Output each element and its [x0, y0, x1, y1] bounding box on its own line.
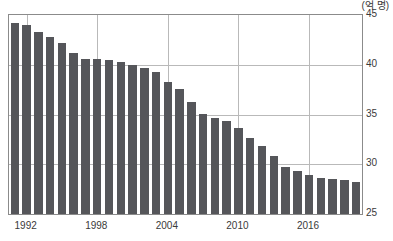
y-tick-label-45: 45: [366, 9, 377, 19]
x-tick-label-2016: 2016: [297, 220, 319, 231]
bar-2005: [175, 89, 183, 214]
bar-1997: [81, 59, 89, 214]
bar-2004: [164, 82, 172, 214]
bar-2000: [117, 62, 125, 214]
bar-2001: [128, 65, 136, 214]
bar-2011: [246, 138, 254, 214]
bar-2002: [140, 68, 148, 214]
bar-2017: [317, 178, 325, 214]
bar-1993: [34, 32, 42, 214]
x-tick-label-1992: 1992: [15, 220, 37, 231]
y-tick-label-35: 35: [366, 109, 377, 119]
y-tick-label-40: 40: [366, 59, 377, 69]
bar-1992: [22, 25, 30, 214]
bar-2007: [199, 114, 207, 214]
bar-1998: [93, 59, 101, 214]
bar-2019: [340, 180, 348, 214]
bar-2003: [152, 72, 160, 214]
x-tick-label-2010: 2010: [226, 220, 248, 231]
plot-area: [8, 14, 363, 215]
bar-series: [9, 15, 362, 214]
bar-1999: [105, 60, 113, 214]
bar-2010: [234, 128, 242, 214]
bar-2014: [281, 167, 289, 214]
x-tick-label-2004: 2004: [156, 220, 178, 231]
x-tick-label-1998: 1998: [85, 220, 107, 231]
bar-2009: [222, 121, 230, 214]
bar-2015: [293, 171, 301, 214]
bar-2006: [187, 102, 195, 214]
y-tick-label-30: 30: [366, 158, 377, 168]
bar-2018: [328, 179, 336, 214]
population-bar-chart: (억 명) 2530354045 19921998200420102016: [0, 0, 393, 241]
y-tick-label-25: 25: [366, 208, 377, 218]
bar-2016: [305, 175, 313, 214]
bar-2020: [352, 182, 360, 214]
bar-1996: [69, 53, 77, 214]
bar-2013: [270, 156, 278, 214]
bar-2008: [211, 118, 219, 215]
bar-2012: [258, 146, 266, 214]
bar-1991: [11, 23, 19, 214]
bar-1994: [46, 37, 54, 214]
bar-1995: [58, 43, 66, 214]
